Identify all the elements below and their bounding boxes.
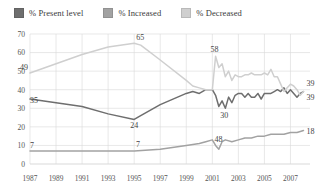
data-label: 24	[130, 121, 138, 130]
data-label: 35	[30, 96, 38, 105]
x-tick-label: 1995	[127, 174, 142, 183]
series-line-increased	[30, 131, 303, 151]
line-chart: % Present level % Increased % Decreased …	[0, 0, 327, 196]
y-tick-label: 60	[17, 48, 25, 57]
x-tick-label: 1991	[75, 174, 90, 183]
y-tick-label: 70	[17, 30, 25, 39]
data-label: 58	[211, 45, 219, 54]
data-label: 39	[306, 93, 314, 102]
x-tick-label: 1997	[153, 174, 168, 183]
legend-item-increased[interactable]: % Increased	[103, 8, 161, 18]
x-tick-label: 2001	[205, 174, 220, 183]
y-axis-ticks: 010203040506070	[17, 30, 25, 169]
x-tick-label: 1987	[23, 174, 38, 183]
data-label: 7	[30, 141, 34, 150]
x-axis-ticks: 1987198919911993199519971999200120032005…	[23, 174, 299, 183]
data-label: 49	[20, 63, 28, 72]
x-tick-label: 1989	[49, 174, 64, 183]
legend-label-decreased: % Decreased	[196, 8, 242, 18]
data-label: 65	[136, 33, 144, 42]
y-tick-label: 40	[17, 86, 25, 95]
legend-swatch-decreased	[181, 8, 191, 18]
data-label: 18	[306, 127, 314, 136]
series-line-present-level	[30, 88, 303, 120]
series-line-decreased	[30, 43, 303, 95]
legend-swatch-increased	[103, 8, 113, 18]
x-tick-label: 1999	[179, 174, 194, 183]
x-tick-label: 2003	[231, 174, 246, 183]
legend-item-decreased[interactable]: % Decreased	[181, 8, 242, 18]
y-tick-label: 0	[21, 160, 25, 169]
data-label: 39	[306, 79, 314, 88]
grid-layer	[30, 34, 310, 164]
y-tick-label: 20	[17, 123, 25, 132]
chart-svg: 010203040506070 4935765247583048393918 1…	[0, 24, 327, 196]
data-label: 48	[215, 135, 223, 144]
x-tick-label: 2007	[283, 174, 298, 183]
data-label: 30	[220, 111, 228, 120]
legend-item-present-level[interactable]: % Present level	[14, 8, 83, 18]
data-labels: 4935765247583048393918	[20, 33, 314, 150]
legend-label-increased: % Increased	[118, 8, 161, 18]
x-tick-label: 1993	[101, 174, 116, 183]
legend-swatch-present-level	[14, 8, 24, 18]
y-tick-label: 30	[17, 104, 25, 113]
data-label: 7	[136, 140, 140, 149]
y-tick-label: 10	[17, 141, 25, 150]
legend-label-present-level: % Present level	[29, 8, 83, 18]
x-tick-label: 2005	[257, 174, 272, 183]
plot-area: 010203040506070 4935765247583048393918 1…	[0, 24, 327, 196]
chart-legend: % Present level % Increased % Decreased	[0, 0, 327, 26]
series-layer	[30, 43, 303, 151]
